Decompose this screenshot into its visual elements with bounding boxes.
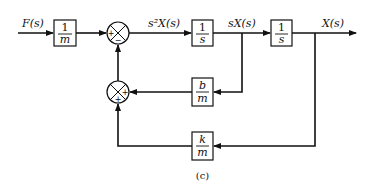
block-spring-num: k [199, 133, 206, 146]
block-gain-m-den: m [60, 33, 70, 46]
block-spring: k m [192, 132, 213, 160]
block-damping-den: m [197, 92, 207, 105]
block-spring-den: m [197, 146, 207, 159]
block-integrator-2-den: s [279, 33, 285, 46]
block-integrator-2: 1 s [271, 20, 292, 46]
block-damping: b m [192, 78, 213, 106]
summing-junction-feedback: + + [107, 81, 129, 104]
input-label: F(s) [21, 17, 44, 30]
accel-label: s²X(s) [148, 17, 180, 30]
position-feedback-line [214, 33, 315, 146]
block-gain-m: 1 m [54, 20, 76, 46]
block-integrator-1: 1 s [192, 20, 213, 46]
figure-caption: (c) [196, 170, 210, 181]
output-label: X(s) [321, 17, 344, 30]
junction-feedback-bottom-sign: + [115, 95, 122, 104]
junction-main-left-sign: + [108, 29, 115, 38]
summing-junction-main: + − [107, 22, 129, 45]
block-diagram: F(s) 1 m + − s²X(s) 1 s sX(s) 1 s X(s) [0, 0, 375, 191]
input-signal: F(s) [18, 17, 53, 33]
junction-main-bottom-sign: − [115, 36, 122, 45]
spring-to-junction-line [118, 104, 192, 146]
velocity-feedback-line [214, 33, 242, 92]
block-damping-num: b [199, 79, 206, 92]
velocity-label: sX(s) [228, 17, 256, 30]
block-integrator-1-den: s [200, 33, 206, 46]
junction-feedback-right-sign: + [122, 88, 129, 97]
